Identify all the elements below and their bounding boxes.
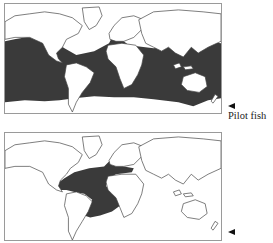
world-map-bottom xyxy=(5,133,221,240)
australia xyxy=(181,200,207,220)
greenland xyxy=(82,136,102,159)
indonesia xyxy=(173,190,193,197)
map-label-pilot-fish: Pilot fish xyxy=(228,110,266,121)
europe xyxy=(109,143,144,167)
pointer-arrow-icon xyxy=(228,103,235,109)
distribution-map-pilot-fish xyxy=(4,3,222,114)
world-map-top xyxy=(5,4,221,113)
new-zealand xyxy=(211,221,218,230)
asia xyxy=(139,137,221,184)
pointer-arrow-icon xyxy=(228,229,235,235)
greenland xyxy=(82,7,102,30)
distribution-map-atlantic-species xyxy=(4,132,222,241)
